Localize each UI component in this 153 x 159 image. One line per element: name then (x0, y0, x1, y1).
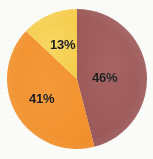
pie-chart: 46% 41% 13% (0, 0, 153, 159)
pie-label-yellow: 13% (50, 38, 75, 51)
pie-label-maroon: 46% (92, 71, 117, 84)
pie-label-orange: 41% (29, 92, 54, 105)
pie-chart-svg (0, 0, 153, 159)
